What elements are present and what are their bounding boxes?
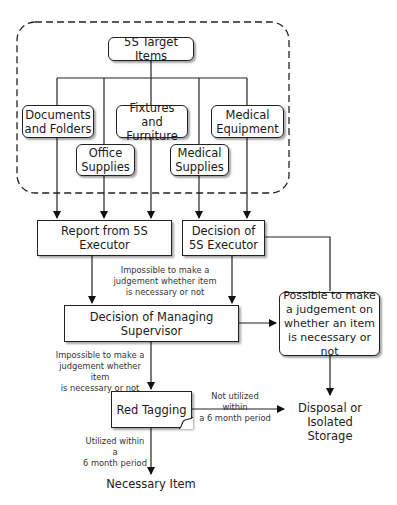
necessary-item: Necessary Item	[106, 477, 196, 491]
label-line: Utilized within a	[82, 436, 148, 458]
box-text: Report from 5S Executor	[38, 224, 171, 252]
text-line: Disposal or	[285, 401, 375, 415]
disposal-isolated-storage: Disposal or Isolated Storage	[285, 401, 375, 443]
text-line: Necessary Item	[106, 477, 195, 491]
edge-label-impossible-2: Impossible to make a judgement whether i…	[50, 350, 150, 394]
decision-5s-executor-box: Decision of 5S Executor	[182, 220, 265, 256]
box-text: Furniture	[126, 129, 178, 143]
box-text: Equipment	[216, 122, 278, 136]
box-text: Supplies	[81, 160, 130, 174]
box-text: whether an item	[284, 317, 375, 331]
box-text: Possible to make	[283, 289, 376, 303]
edge-label-utilized: Utilized within a 6 month period	[82, 436, 148, 469]
box-text: and Folders	[25, 122, 92, 136]
medical-supplies-box: Medical Supplies	[170, 144, 229, 176]
box-text: a judgement on	[286, 303, 373, 317]
box-text: Documents	[25, 108, 91, 122]
documents-folders-box: Documents and Folders	[22, 105, 94, 138]
box-text: Decision of Managing Supervisor	[65, 310, 238, 338]
target-items-label: 5S Target Items	[109, 35, 193, 63]
box-text: Decision of	[192, 224, 256, 238]
box-text: Medical	[177, 146, 221, 160]
label-line: a 6 month period	[198, 413, 272, 424]
label-line: is necessary or not	[110, 287, 220, 298]
office-supplies-box: Office Supplies	[76, 144, 135, 176]
label-line: Impossible to make a	[110, 265, 220, 276]
label-line: judgement whether item	[110, 276, 220, 287]
medical-equipment-box: Medical Equipment	[211, 105, 284, 138]
text-line: Isolated Storage	[285, 415, 375, 443]
label-line: 6 month period	[82, 458, 148, 469]
fixtures-furniture-box: Fixtures and Furniture	[116, 105, 188, 138]
label-line: Not utilized within	[198, 391, 272, 413]
possible-judgement-box: Possible to make a judgement on whether …	[279, 292, 380, 356]
red-tagging-box: Red Tagging	[111, 391, 192, 428]
report-5s-executor-box: Report from 5S Executor	[37, 220, 172, 256]
box-text: 5S Executor	[189, 238, 258, 252]
decision-managing-supervisor-box: Decision of Managing Supervisor	[64, 305, 239, 342]
box-text: Office	[89, 146, 123, 160]
label-line: judgement whether item	[50, 361, 150, 383]
edge-label-not-utilized: Not utilized within a 6 month period	[198, 391, 272, 424]
box-text: Red Tagging	[116, 403, 186, 417]
folded-corner-icon	[179, 417, 193, 429]
box-text: Supplies	[175, 160, 224, 174]
label-line: Impossible to make a	[50, 350, 150, 361]
box-text: is necessary or not	[280, 331, 379, 359]
box-text: Medical	[225, 108, 269, 122]
target-items-box: 5S Target Items	[108, 37, 194, 61]
box-text: Fixtures and	[117, 101, 187, 129]
edge-label-impossible-1: Impossible to make a judgement whether i…	[110, 265, 220, 298]
